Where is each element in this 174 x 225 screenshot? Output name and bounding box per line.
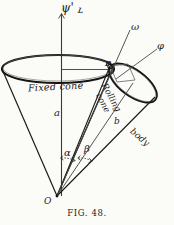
phi-label: φ	[157, 41, 164, 51]
angle-alpha-label: α	[64, 148, 71, 158]
apex-label: O	[44, 197, 51, 206]
fixed-cone-rim-inner-ellipse	[3, 55, 113, 81]
axis-label-psi: ψ'	[61, 2, 74, 14]
side-b-label: b	[114, 117, 120, 126]
fixed-cone-rim-ellipse	[2, 55, 114, 83]
angle-beta-label: β	[84, 144, 90, 154]
contact-point-label: P	[105, 59, 111, 67]
figure-caption: FIG. 48.	[0, 208, 174, 218]
rolling-cone-axis-b	[57, 83, 133, 196]
figure-48-container: ψ' ʟ ω φ P Fixed cone Rolling cone a b b…	[0, 0, 174, 225]
cone-diagram-svg	[0, 0, 174, 225]
omega-label: ω	[131, 22, 139, 32]
side-a-label: a	[54, 108, 60, 118]
apex-point-marker	[56, 195, 59, 198]
